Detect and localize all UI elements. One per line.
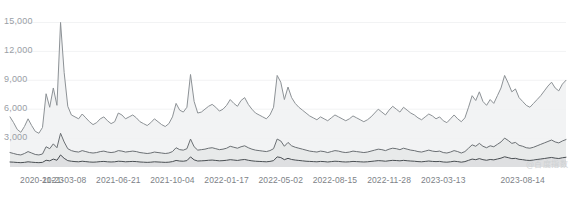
chart-container: 3,0006,0009,00012,00015,000 2020-11-2320…: [0, 0, 576, 208]
x-axis-tick-label: 2021-03-08: [42, 176, 86, 185]
y-axis-tick-label: 9,000: [4, 75, 28, 84]
x-axis-tick-label: 2021-10-04: [150, 176, 194, 185]
y-axis-tick-label: 12,000: [4, 46, 33, 55]
y-axis-tick-label: 6,000: [4, 104, 28, 113]
x-axis-tick-label: 2022-11-28: [367, 176, 411, 185]
x-axis-tick-label: 2023-03-13: [421, 176, 465, 185]
x-axis-tick-label: 2021-06-21: [96, 176, 140, 185]
x-axis-tick-label: 2022-08-15: [313, 176, 357, 185]
x-axis-tick-label: 2023-08-14: [500, 176, 544, 185]
x-axis-tick-label: 2022-01-17: [204, 176, 248, 185]
y-axis-tick-label: 3,000: [4, 133, 28, 142]
series-layer: [10, 22, 566, 167]
watermark-label: @百度指数: [526, 158, 568, 169]
y-axis-tick-label: 15,000: [4, 17, 33, 26]
x-axis-tick-label: 2022-05-02: [259, 176, 303, 185]
